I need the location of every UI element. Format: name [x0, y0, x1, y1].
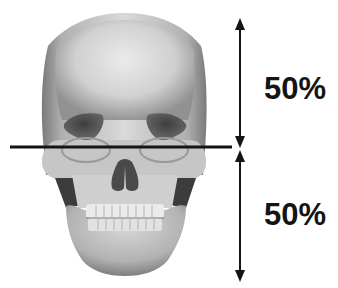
teeth: [86, 204, 164, 231]
forehead: [55, 20, 194, 120]
maxilla: [72, 175, 178, 208]
upper-percentage-label: 50%: [264, 73, 336, 105]
skull-proportion-diagram: [0, 0, 338, 288]
lower-percentage-label: 50%: [264, 199, 336, 231]
upper-dimension-arrow: [235, 18, 245, 148]
arrowhead-up-icon: [235, 18, 245, 30]
lower-dimension-arrow: [235, 150, 245, 282]
arrowhead-down-icon: [235, 270, 245, 282]
arrowhead-up-icon: [235, 150, 245, 162]
skull-illustration: [42, 13, 207, 276]
arrowhead-down-icon: [235, 136, 245, 148]
